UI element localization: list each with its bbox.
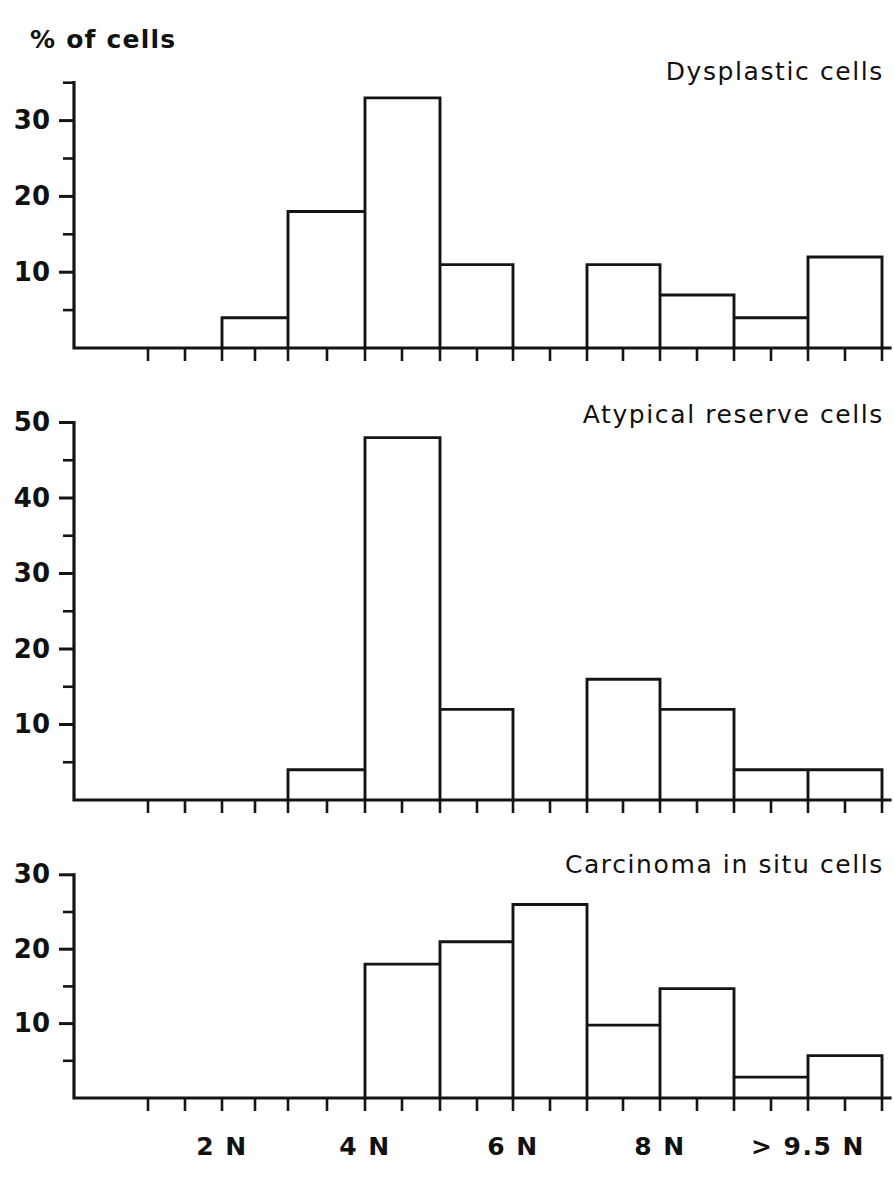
y-tick-labels-2: 102030 <box>14 859 50 1038</box>
y-tick-label: 50 <box>14 407 50 437</box>
y-axis-caption: % of cells <box>30 25 176 54</box>
y-tick-label: 30 <box>14 105 50 135</box>
y-tick-label: 10 <box>14 257 50 287</box>
x-ticks-0 <box>148 348 882 361</box>
panel-title-1: Atypical reserve cells <box>583 400 884 429</box>
panel-carcinoma-in-situ-cells: Carcinoma in situ cells 102030 <box>14 850 890 1111</box>
axis-lines-1 <box>74 423 890 801</box>
y-tick-label: 30 <box>14 558 50 588</box>
histogram-bars-1 <box>288 438 882 800</box>
x-tick-label: > 9.5 N <box>751 1132 865 1161</box>
axis-lines-2 <box>74 875 890 1098</box>
x-ticks-2 <box>148 1098 882 1111</box>
x-ticks-1 <box>148 800 882 813</box>
y-tick-label: 20 <box>14 181 50 211</box>
x-axis-tick-labels: 2 N4 N6 N8 N> 9.5 N <box>196 1132 865 1161</box>
y-tick-label: 10 <box>14 709 50 739</box>
y-ticks-2 <box>59 875 74 1061</box>
x-tick-label: 2 N <box>196 1132 248 1161</box>
three-panel-histogram: % of cells Dysplastic cells 102030 Atypi… <box>0 0 894 1180</box>
y-tick-label: 40 <box>14 483 50 513</box>
figure-container: % of cells Dysplastic cells 102030 Atypi… <box>0 0 894 1180</box>
histogram-bars-0 <box>222 98 882 348</box>
panel-atypical-reserve-cells: Atypical reserve cells 1020304050 <box>14 400 890 813</box>
y-tick-labels-0: 102030 <box>14 105 50 287</box>
y-tick-labels-1: 1020304050 <box>14 407 50 739</box>
y-tick-label: 20 <box>14 634 50 664</box>
axis-lines-0 <box>74 83 890 348</box>
histogram-bars-2 <box>365 905 882 1098</box>
panel-title-2: Carcinoma in situ cells <box>565 850 884 879</box>
y-tick-label: 30 <box>14 859 50 889</box>
y-tick-label: 10 <box>14 1008 50 1038</box>
y-tick-label: 20 <box>14 934 50 964</box>
panel-title-0: Dysplastic cells <box>666 57 884 86</box>
x-tick-label: 8 N <box>634 1132 686 1161</box>
x-tick-label: 4 N <box>339 1132 391 1161</box>
x-tick-label: 6 N <box>487 1132 539 1161</box>
y-ticks-1 <box>59 423 74 763</box>
y-ticks-0 <box>59 83 74 310</box>
panel-dysplastic-cells: Dysplastic cells 102030 <box>14 57 890 361</box>
